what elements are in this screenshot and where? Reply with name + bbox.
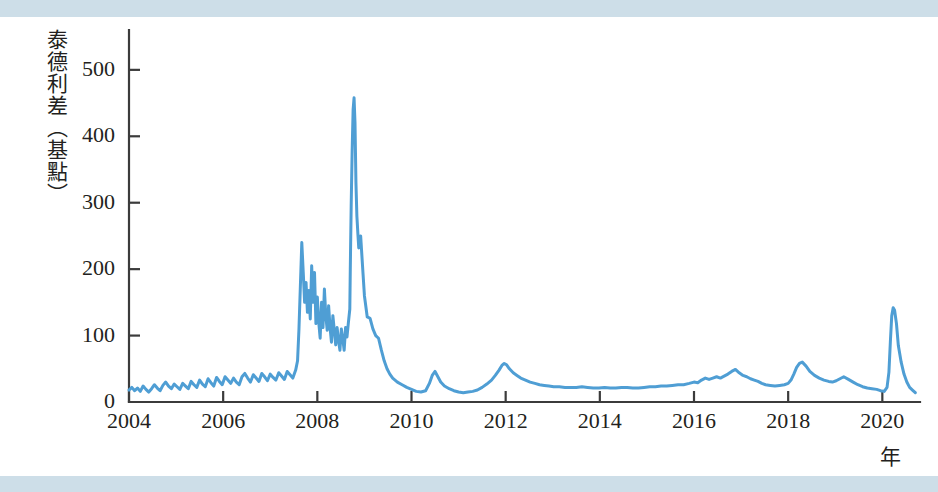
x-tick-label: 2014 xyxy=(555,410,645,432)
series-group xyxy=(129,98,915,393)
x-tick-label: 2006 xyxy=(178,410,268,432)
x-tick-label: 2012 xyxy=(461,410,551,432)
page-edge-band-top xyxy=(0,0,938,17)
ted-spread-chart: 泰德利差（基點） 0100200300400500200420062008201… xyxy=(0,17,938,476)
page-edge-band-bottom xyxy=(0,476,938,492)
y-tick-label: 300 xyxy=(59,191,115,213)
x-tick-label: 2018 xyxy=(743,410,833,432)
y-tick-label: 200 xyxy=(59,257,115,279)
x-tick-label: 2016 xyxy=(649,410,739,432)
x-tick-label: 2020 xyxy=(837,410,927,432)
x-tick-label: 2004 xyxy=(84,410,174,432)
y-tick-label: 400 xyxy=(59,124,115,146)
axes-group xyxy=(129,30,920,402)
data-series-line xyxy=(129,98,915,393)
x-axis-unit-label: 年 xyxy=(880,440,901,470)
y-tick-label: 500 xyxy=(59,58,115,80)
x-tick-label: 2010 xyxy=(367,410,457,432)
x-tick-label: 2008 xyxy=(272,410,362,432)
y-tick-label: 100 xyxy=(59,324,115,346)
figure-page: 泰德利差（基點） 0100200300400500200420062008201… xyxy=(0,0,938,492)
